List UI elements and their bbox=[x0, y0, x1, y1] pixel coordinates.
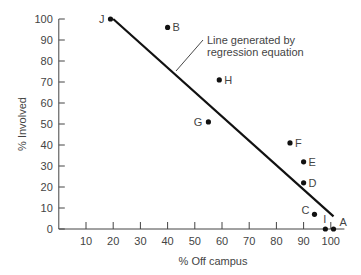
data-point-b: B bbox=[165, 21, 180, 33]
point-label: J bbox=[99, 13, 105, 25]
y-tick-label: 80 bbox=[41, 55, 53, 67]
y-tick-label: 40 bbox=[41, 139, 53, 151]
x-tick-label: 70 bbox=[243, 235, 255, 247]
x-tick-label: 60 bbox=[216, 235, 228, 247]
data-point-j: J bbox=[99, 13, 113, 25]
scatter-chart: 0102030405060708090100102030405060708090… bbox=[0, 0, 361, 275]
data-point-f: F bbox=[287, 137, 302, 149]
x-tick-label: 80 bbox=[270, 235, 282, 247]
data-point-h: H bbox=[217, 74, 233, 86]
y-tick-label: 70 bbox=[41, 76, 53, 88]
point-label: H bbox=[224, 74, 232, 86]
point-label: F bbox=[295, 137, 302, 149]
x-tick-label: 100 bbox=[322, 235, 340, 247]
x-axis-label: % Off campus bbox=[179, 255, 248, 267]
point-label: C bbox=[302, 204, 310, 216]
y-tick-label: 10 bbox=[41, 202, 53, 214]
point-label: G bbox=[194, 116, 203, 128]
y-tick-label: 0 bbox=[47, 223, 53, 235]
annotation-line-2: regression equation bbox=[207, 46, 304, 58]
annotation-pointer bbox=[176, 40, 203, 71]
x-tick-label: 20 bbox=[107, 235, 119, 247]
point-label: A bbox=[340, 216, 348, 228]
y-tick-label: 90 bbox=[41, 34, 53, 46]
x-tick-label: 10 bbox=[80, 235, 92, 247]
x-tick-label: 30 bbox=[134, 235, 146, 247]
y-axis-label: % Involved bbox=[16, 97, 28, 151]
x-tick-label: 40 bbox=[161, 235, 173, 247]
data-point-c: C bbox=[302, 204, 318, 217]
annotation: Line generated by regression equation bbox=[176, 34, 304, 71]
x-tick-label: 90 bbox=[297, 235, 309, 247]
y-tick-label: 50 bbox=[41, 118, 53, 130]
point-label: B bbox=[173, 21, 180, 33]
y-tick-label: 20 bbox=[41, 181, 53, 193]
annotation-line-1: Line generated by bbox=[207, 34, 296, 46]
data-point-e: E bbox=[301, 156, 316, 168]
data-point-g: G bbox=[194, 116, 211, 128]
point-label: D bbox=[309, 177, 317, 189]
data-point-d: D bbox=[301, 177, 317, 189]
y-tick-label: 60 bbox=[41, 97, 53, 109]
point-label: E bbox=[309, 156, 316, 168]
point-label: I bbox=[323, 213, 326, 225]
data-point-i: I bbox=[323, 213, 328, 232]
y-tick-label: 30 bbox=[41, 160, 53, 172]
y-tick-label: 100 bbox=[34, 13, 52, 25]
x-tick-label: 50 bbox=[189, 235, 201, 247]
